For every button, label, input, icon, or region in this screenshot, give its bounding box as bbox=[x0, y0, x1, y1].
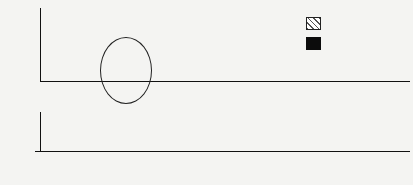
bottom-x-axis bbox=[35, 151, 410, 152]
chart-figure bbox=[0, 0, 413, 185]
bottom-y-axis bbox=[40, 112, 41, 152]
highlight-ellipse bbox=[100, 37, 152, 104]
top-x-axis bbox=[40, 81, 410, 82]
y-axis-label bbox=[4, 24, 32, 164]
top-y-axis bbox=[40, 8, 41, 82]
legend-tm-swatch bbox=[306, 17, 321, 30]
legend-other-swatch bbox=[306, 37, 321, 50]
